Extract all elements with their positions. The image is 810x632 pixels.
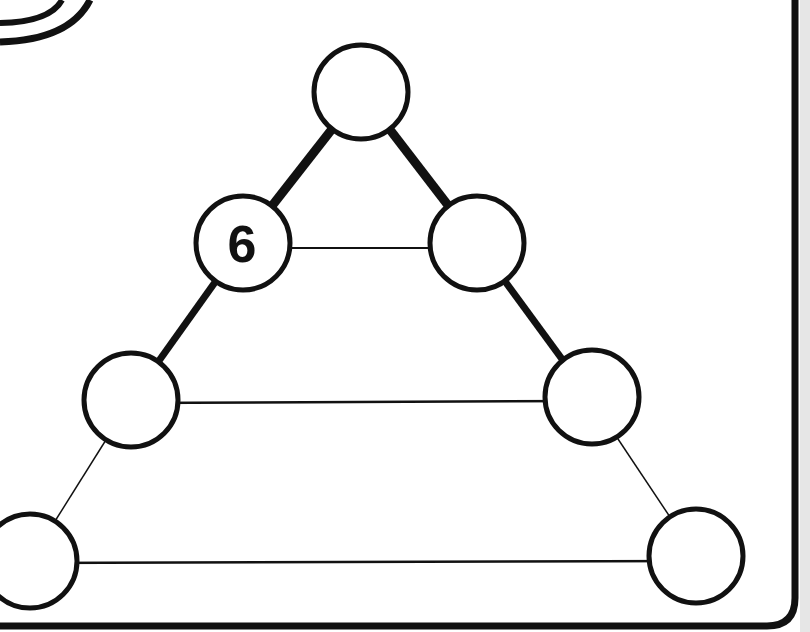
node-row2-left[interactable]: 6 xyxy=(196,196,290,290)
node-bottom-right[interactable] xyxy=(649,509,743,603)
node-row3-left[interactable] xyxy=(84,353,178,447)
node-row3-right[interactable] xyxy=(545,350,639,444)
node-row2-right[interactable] xyxy=(430,196,524,290)
decorative-arc-inner xyxy=(0,0,62,23)
node-row2-left-value: 6 xyxy=(228,215,257,273)
side-panel xyxy=(800,0,810,632)
edge-bottom-horizontal xyxy=(30,561,696,563)
puzzle-canvas: 6 xyxy=(0,0,810,632)
node-bottom-left[interactable] xyxy=(0,514,77,608)
edge-row3-horizontal xyxy=(131,401,592,403)
node-top[interactable] xyxy=(314,45,408,139)
